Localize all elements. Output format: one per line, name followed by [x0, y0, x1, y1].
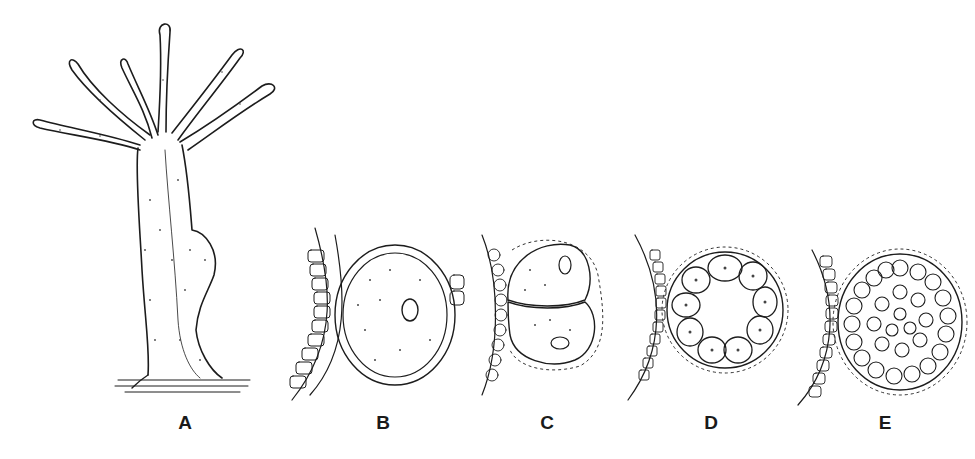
panel-b: B [270, 220, 470, 440]
panel-label-c: C [532, 412, 562, 434]
panel-label-d: D [696, 412, 726, 434]
blastula-illustration [620, 220, 790, 420]
panel-label-e: E [870, 412, 900, 434]
two-cell-illustration [470, 220, 630, 420]
panel-a: A [0, 0, 300, 420]
morula-illustration [790, 220, 975, 420]
panel-e: E [790, 220, 975, 450]
panel-label-a: A [170, 412, 200, 434]
panel-c: C [470, 220, 630, 440]
panel-label-b: B [368, 412, 398, 434]
hydra-illustration [0, 0, 300, 420]
egg-follicle-illustration [270, 220, 470, 420]
panel-d: D [620, 220, 790, 450]
